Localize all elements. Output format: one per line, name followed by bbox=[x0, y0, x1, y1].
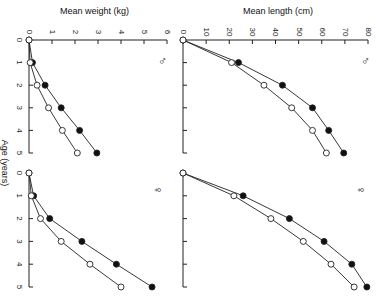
svg-text:80: 80 bbox=[364, 28, 373, 37]
female-symbol-length: ♀ bbox=[354, 186, 368, 195]
open-marker bbox=[180, 170, 186, 176]
open-marker bbox=[46, 105, 52, 111]
svg-text:2: 2 bbox=[15, 216, 24, 221]
open-marker bbox=[180, 37, 186, 43]
filled-marker bbox=[47, 216, 53, 222]
svg-text:6: 6 bbox=[163, 30, 172, 35]
filled-marker bbox=[349, 261, 355, 267]
svg-text:0: 0 bbox=[15, 38, 24, 43]
svg-text:5: 5 bbox=[140, 30, 149, 35]
open-marker bbox=[231, 193, 237, 199]
svg-text:60: 60 bbox=[318, 28, 327, 37]
panel-female-weight: 012345 bbox=[15, 170, 155, 290]
svg-text:1: 1 bbox=[15, 194, 24, 199]
filled-marker bbox=[341, 150, 347, 156]
filled-marker bbox=[42, 82, 48, 88]
svg-text:5: 5 bbox=[15, 151, 24, 156]
panel-male-length: 01020304050607080 bbox=[179, 28, 373, 156]
svg-text:3: 3 bbox=[15, 106, 24, 111]
svg-text:1: 1 bbox=[48, 30, 57, 35]
open-marker bbox=[34, 82, 40, 88]
filled-marker bbox=[279, 82, 285, 88]
svg-text:5: 5 bbox=[15, 285, 24, 290]
open-marker bbox=[26, 170, 32, 176]
svg-text:3: 3 bbox=[94, 30, 103, 35]
filled-marker bbox=[236, 60, 242, 66]
open-marker bbox=[289, 105, 295, 111]
svg-text:2: 2 bbox=[15, 83, 24, 88]
open-marker bbox=[351, 284, 357, 290]
open-marker bbox=[118, 284, 124, 290]
panel-female-length bbox=[180, 170, 370, 290]
svg-text:2: 2 bbox=[71, 30, 80, 35]
svg-text:4: 4 bbox=[15, 128, 24, 133]
open-marker bbox=[28, 193, 34, 199]
open-marker bbox=[87, 261, 93, 267]
filled-marker bbox=[94, 150, 100, 156]
male-symbol-weight: ♂ bbox=[158, 54, 167, 68]
svg-text:50: 50 bbox=[295, 28, 304, 37]
open-marker bbox=[323, 150, 329, 156]
open-marker bbox=[268, 216, 274, 222]
open-marker bbox=[229, 60, 235, 66]
svg-text:30: 30 bbox=[248, 28, 257, 37]
svg-text:1: 1 bbox=[15, 60, 24, 65]
open-marker bbox=[27, 60, 33, 66]
filled-marker bbox=[58, 105, 64, 111]
length-axis-label: Mean length (cm) bbox=[243, 6, 313, 16]
svg-text:0: 0 bbox=[179, 30, 188, 35]
filled-marker bbox=[113, 261, 119, 267]
open-marker bbox=[26, 37, 32, 43]
filled-marker bbox=[149, 284, 155, 290]
filled-marker bbox=[77, 127, 83, 133]
svg-text:3: 3 bbox=[15, 239, 24, 244]
open-marker bbox=[328, 261, 334, 267]
svg-text:20: 20 bbox=[225, 28, 234, 37]
weight-axis-label: Mean weight (kg) bbox=[60, 6, 129, 16]
svg-text:40: 40 bbox=[271, 28, 280, 37]
panel-male-weight: 0123450123456 bbox=[15, 30, 172, 156]
male-symbol-length: ♂ bbox=[361, 54, 370, 68]
filled-marker bbox=[321, 238, 327, 244]
svg-text:10: 10 bbox=[202, 28, 211, 37]
open-marker bbox=[58, 238, 64, 244]
open-marker bbox=[261, 82, 267, 88]
svg-text:0: 0 bbox=[15, 171, 24, 176]
svg-text:4: 4 bbox=[117, 30, 126, 35]
filled-marker bbox=[310, 105, 316, 111]
filled-marker bbox=[240, 193, 246, 199]
filled-marker bbox=[79, 238, 85, 244]
open-marker bbox=[59, 127, 65, 133]
svg-text:70: 70 bbox=[341, 28, 350, 37]
age-axis-label: Age (years) bbox=[0, 140, 10, 187]
open-marker bbox=[74, 150, 80, 156]
open-marker bbox=[310, 127, 316, 133]
growth-chart: 012345012345601020304050607080012345 bbox=[0, 0, 379, 298]
open-marker bbox=[300, 238, 306, 244]
open-marker bbox=[38, 216, 44, 222]
filled-marker bbox=[326, 127, 332, 133]
svg-text:4: 4 bbox=[15, 262, 24, 267]
filled-marker bbox=[364, 284, 370, 290]
female-symbol-weight: ♀ bbox=[151, 186, 165, 195]
filled-marker bbox=[286, 216, 292, 222]
svg-text:0: 0 bbox=[25, 30, 34, 35]
